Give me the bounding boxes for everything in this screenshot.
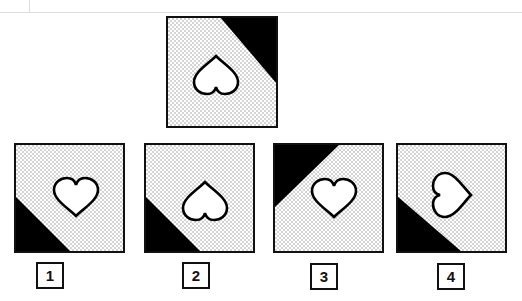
top-vertical-divider	[29, 0, 30, 12]
question-figure	[166, 16, 278, 128]
option-3-label[interactable]: 3	[310, 263, 338, 290]
option-1-label[interactable]: 1	[36, 262, 64, 289]
option-4-label[interactable]: 4	[437, 263, 465, 290]
option-2-figure[interactable]	[144, 143, 255, 253]
option-3-figure[interactable]	[273, 143, 384, 253]
top-divider-line	[0, 12, 522, 13]
option-2-label[interactable]: 2	[182, 262, 210, 289]
option-4-figure[interactable]	[396, 143, 507, 253]
option-1-figure[interactable]	[14, 143, 125, 253]
